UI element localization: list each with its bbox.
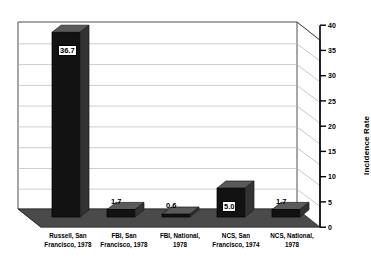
y-tick-30: 30 [328,72,336,79]
value-label-fbi-sf: 1.7 [111,197,121,206]
x-label-ncs-national-1978: NCS, National, 1978 [254,232,330,249]
x-label-line1: NCS, National, [254,232,330,241]
box-top-right-edge [297,22,320,40]
y-tick-40: 40 [328,22,336,29]
value-label-fbi-national: 0.6 [166,201,176,210]
y-tick-15: 15 [328,148,336,155]
y-axis [320,25,326,227]
depth-lines [297,22,320,227]
y-axis-title: Incidence Rate [362,116,371,175]
y-tick-25: 25 [328,98,336,105]
value-label-ncs-sf: 5.0 [222,201,236,212]
y-tick-10: 10 [328,173,336,180]
y-tick-0: 0 [328,224,332,231]
y-tick-35: 35 [328,47,336,54]
y-tick-20: 20 [328,123,336,130]
y-tick-5: 5 [328,199,332,206]
value-label-ncs-national: 1.7 [276,197,286,206]
x-label-line2: 1978 [254,241,330,250]
value-label-russell: 36.7 [58,45,77,56]
